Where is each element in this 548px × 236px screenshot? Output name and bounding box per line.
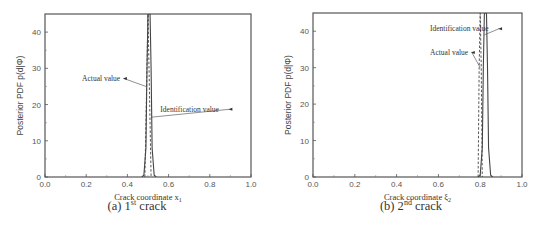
caption-a-prefix: (a) 1: [108, 199, 131, 213]
caption-b-prefix: (b) 2: [380, 199, 404, 213]
x-tick-label: 0.4: [122, 180, 134, 189]
x-tick-label: 0.2: [81, 180, 93, 189]
y-tick-label: 0: [305, 173, 310, 182]
x-tick-label: 0.2: [349, 180, 361, 189]
y-tick-label: 10: [32, 137, 41, 146]
x-tick-label: 0.0: [307, 180, 319, 189]
y-tick-label: 30: [32, 64, 41, 73]
annotation-label: Identification value: [160, 105, 219, 114]
caption-a-suffix: crack: [136, 199, 166, 213]
caption-b-suffix: crack: [412, 199, 442, 213]
annotation-arrowhead: [471, 51, 475, 54]
x-tick-label: 1.0: [245, 180, 257, 189]
chart-panel-b: 0.00.20.40.60.81.0010203040Crack coordin…: [274, 0, 548, 236]
x-tick-label: 0.6: [163, 180, 175, 189]
x-tick-label: 0.6: [433, 180, 445, 189]
caption-b: (b) 2nd crack: [274, 198, 548, 214]
caption-b-sup: nd: [404, 198, 412, 207]
annotation-label: Identification value: [430, 24, 489, 33]
x-tick-label: 1.0: [516, 180, 528, 189]
annotation-arrowhead: [228, 108, 232, 111]
y-axis-title: Posterior PDF p(d|Φ): [15, 55, 25, 135]
y-tick-label: 40: [300, 27, 309, 36]
x-tick-label: 0.0: [39, 180, 51, 189]
y-tick-label: 10: [300, 137, 309, 146]
y-tick-label: 0: [37, 173, 42, 182]
x-tick-label: 0.8: [204, 180, 216, 189]
series-identification-value: [478, 13, 493, 177]
x-tick-label: 0.4: [391, 180, 403, 189]
chart-panel-a: 0.00.20.40.60.81.0010203040Crack coordin…: [0, 0, 274, 236]
y-axis-title: Posterior PDF p(d|Φ): [283, 55, 293, 135]
annotation-label: Actual value: [82, 74, 121, 83]
plot-frame: [313, 13, 522, 177]
caption-a: (a) 1st crack: [0, 198, 274, 214]
annotation-arrowhead: [123, 77, 127, 80]
x-tick-label: 0.8: [475, 180, 487, 189]
series-actual-value: [478, 13, 482, 177]
y-tick-label: 30: [300, 64, 309, 73]
y-tick-label: 20: [300, 100, 309, 109]
annotation-arrowhead: [498, 27, 502, 30]
annotation-arrow: [124, 79, 146, 87]
y-tick-label: 20: [32, 101, 41, 110]
y-tick-label: 40: [32, 28, 41, 37]
annotation-label: Actual value: [430, 48, 469, 57]
series-identification-value: [142, 14, 156, 177]
